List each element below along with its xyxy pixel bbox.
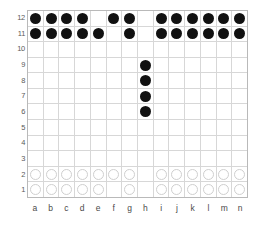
board-cell-k10[interactable] (185, 42, 201, 57)
board-cell-k5[interactable] (185, 120, 201, 135)
board-cell-i9[interactable] (154, 58, 170, 73)
board-cell-a6[interactable] (28, 104, 44, 119)
board-cell-f8[interactable] (107, 73, 123, 88)
board-cell-e7[interactable] (91, 89, 107, 104)
board-cell-h11[interactable] (138, 27, 154, 42)
board-cell-m5[interactable] (217, 120, 233, 135)
board-cell-g10[interactable] (122, 42, 138, 57)
board-cell-j1[interactable] (169, 182, 185, 197)
board-cell-n7[interactable] (232, 89, 247, 104)
board-cell-a2[interactable] (28, 167, 44, 182)
board-cell-b3[interactable] (44, 151, 60, 166)
board-cell-g3[interactable] (122, 151, 138, 166)
board-cell-c12[interactable] (59, 11, 75, 26)
board-cell-n3[interactable] (232, 151, 247, 166)
board-cell-l6[interactable] (201, 104, 217, 119)
board-cell-e2[interactable] (91, 167, 107, 182)
board-cell-h12[interactable] (138, 11, 154, 26)
board-cell-l7[interactable] (201, 89, 217, 104)
board-cell-b1[interactable] (44, 182, 60, 197)
board-cell-a9[interactable] (28, 58, 44, 73)
board-cell-l9[interactable] (201, 58, 217, 73)
board-cell-d3[interactable] (75, 151, 91, 166)
board-cell-l11[interactable] (201, 27, 217, 42)
board-cell-a11[interactable] (28, 27, 44, 42)
board-cell-c2[interactable] (59, 167, 75, 182)
board-cell-n1[interactable] (232, 182, 247, 197)
board-cell-m7[interactable] (217, 89, 233, 104)
board-cell-a5[interactable] (28, 120, 44, 135)
board-cell-m9[interactable] (217, 58, 233, 73)
board-cell-k1[interactable] (185, 182, 201, 197)
board-cell-f1[interactable] (107, 182, 123, 197)
board-cell-a10[interactable] (28, 42, 44, 57)
board-cell-j4[interactable] (169, 136, 185, 151)
board-cell-a1[interactable] (28, 182, 44, 197)
board-cell-m4[interactable] (217, 136, 233, 151)
board-cell-a7[interactable] (28, 89, 44, 104)
board-cell-k11[interactable] (185, 27, 201, 42)
board-cell-m10[interactable] (217, 42, 233, 57)
board-cell-c6[interactable] (59, 104, 75, 119)
board-cell-k2[interactable] (185, 167, 201, 182)
board-cell-g2[interactable] (122, 167, 138, 182)
board-cell-k8[interactable] (185, 73, 201, 88)
board-cell-e1[interactable] (91, 182, 107, 197)
board-cell-f7[interactable] (107, 89, 123, 104)
board-cell-e3[interactable] (91, 151, 107, 166)
board-cell-b5[interactable] (44, 120, 60, 135)
board-cell-h5[interactable] (138, 120, 154, 135)
board-cell-j6[interactable] (169, 104, 185, 119)
board-cell-f5[interactable] (107, 120, 123, 135)
board-cell-h4[interactable] (138, 136, 154, 151)
board-cell-a8[interactable] (28, 73, 44, 88)
board-cell-b12[interactable] (44, 11, 60, 26)
board-cell-d4[interactable] (75, 136, 91, 151)
board-cell-m12[interactable] (217, 11, 233, 26)
board-cell-h6[interactable] (138, 104, 154, 119)
board-cell-b8[interactable] (44, 73, 60, 88)
board-cell-b11[interactable] (44, 27, 60, 42)
board-cell-k12[interactable] (185, 11, 201, 26)
board-cell-h10[interactable] (138, 42, 154, 57)
board-cell-n5[interactable] (232, 120, 247, 135)
board-cell-m8[interactable] (217, 73, 233, 88)
board-cell-d10[interactable] (75, 42, 91, 57)
board-cell-f9[interactable] (107, 58, 123, 73)
board-cell-d12[interactable] (75, 11, 91, 26)
board-cell-i1[interactable] (154, 182, 170, 197)
board-cell-k4[interactable] (185, 136, 201, 151)
board-cell-g9[interactable] (122, 58, 138, 73)
board-cell-e8[interactable] (91, 73, 107, 88)
board-cell-e9[interactable] (91, 58, 107, 73)
board-cell-d7[interactable] (75, 89, 91, 104)
board-cell-g8[interactable] (122, 73, 138, 88)
board-cell-c9[interactable] (59, 58, 75, 73)
board-cell-l8[interactable] (201, 73, 217, 88)
board-cell-l5[interactable] (201, 120, 217, 135)
board-cell-i10[interactable] (154, 42, 170, 57)
board-cell-j3[interactable] (169, 151, 185, 166)
board-cell-j10[interactable] (169, 42, 185, 57)
board-cell-m11[interactable] (217, 27, 233, 42)
board-cell-e6[interactable] (91, 104, 107, 119)
board-cell-b6[interactable] (44, 104, 60, 119)
board-cell-e10[interactable] (91, 42, 107, 57)
board-cell-h3[interactable] (138, 151, 154, 166)
board-cell-g4[interactable] (122, 136, 138, 151)
board-cell-e5[interactable] (91, 120, 107, 135)
board-cell-c5[interactable] (59, 120, 75, 135)
board-cell-h7[interactable] (138, 89, 154, 104)
board-cell-m1[interactable] (217, 182, 233, 197)
board-cell-d1[interactable] (75, 182, 91, 197)
board-cell-l1[interactable] (201, 182, 217, 197)
board-cell-d8[interactable] (75, 73, 91, 88)
board-cell-l10[interactable] (201, 42, 217, 57)
board-cell-n4[interactable] (232, 136, 247, 151)
board-cell-n10[interactable] (232, 42, 247, 57)
board-cell-d2[interactable] (75, 167, 91, 182)
board-cell-i11[interactable] (154, 27, 170, 42)
board-cell-a4[interactable] (28, 136, 44, 151)
board-cell-i5[interactable] (154, 120, 170, 135)
board-cell-n8[interactable] (232, 73, 247, 88)
